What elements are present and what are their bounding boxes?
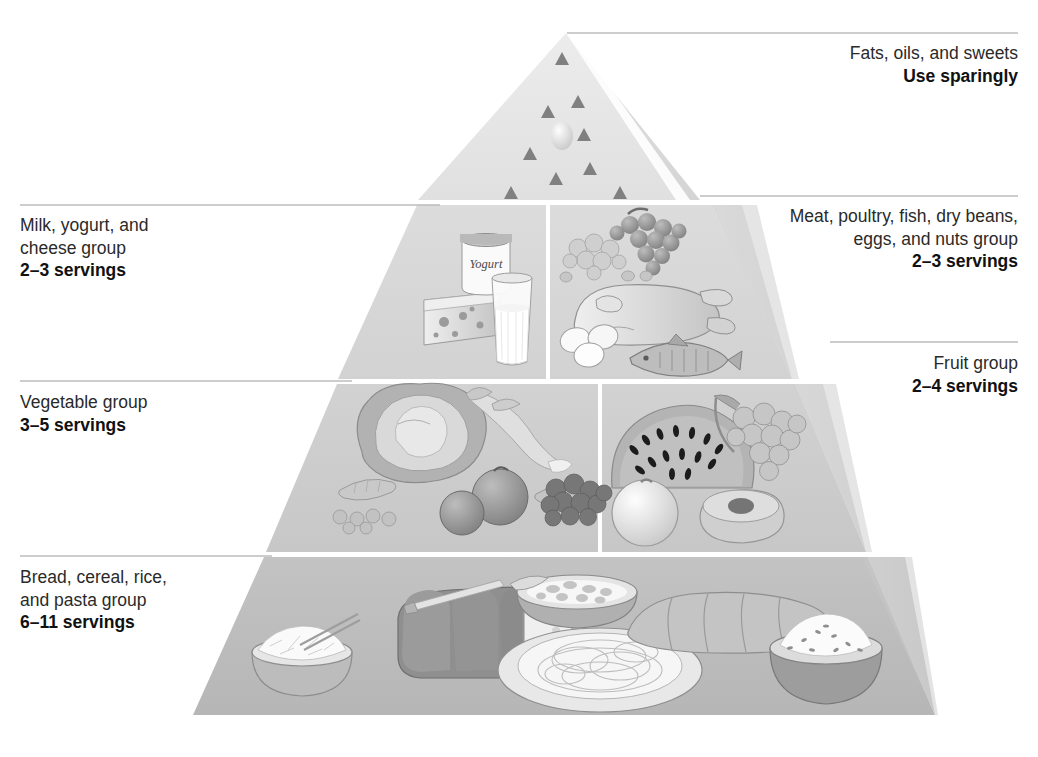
callout-bread-cereal-rice-pasta: Bread, cereal, rice, and pasta group 6–1… bbox=[20, 566, 167, 634]
group-label-fats: Fats, oils, and sweets bbox=[850, 42, 1018, 65]
nut-icon bbox=[560, 272, 572, 282]
lettuce-icon bbox=[357, 383, 486, 482]
group-label-milk-line1: Milk, yogurt, and bbox=[20, 214, 148, 237]
group-label-meat-line1: Meat, poultry, fish, dry beans, bbox=[790, 205, 1018, 228]
pyramid-graphic: Yogurt bbox=[0, 0, 1038, 757]
melon-half-icon bbox=[700, 490, 784, 543]
callout-vegetable-group: Vegetable group 3–5 servings bbox=[20, 391, 147, 437]
food-pyramid-diagram: Yogurt bbox=[0, 0, 1038, 757]
nut-icon bbox=[640, 271, 652, 281]
group-label-fruit: Fruit group bbox=[912, 352, 1018, 375]
group-label-meat-line2: eggs, and nuts group bbox=[790, 228, 1018, 251]
group-label-milk-line2: cheese group bbox=[20, 237, 148, 260]
servings-label-meat: 2–3 servings bbox=[790, 250, 1018, 273]
yogurt-label: Yogurt bbox=[470, 257, 503, 271]
servings-label-fats: Use sparingly bbox=[850, 65, 1018, 88]
milk-glass-icon bbox=[492, 273, 532, 365]
tier-milk-meat bbox=[338, 205, 799, 379]
sugar-circle-symbols bbox=[551, 122, 573, 150]
nut-icon bbox=[622, 271, 635, 281]
servings-label-milk: 2–3 servings bbox=[20, 259, 148, 282]
group-label-vegetable: Vegetable group bbox=[20, 391, 147, 414]
orange-icon bbox=[612, 480, 678, 547]
group-label-bread-line1: Bread, cereal, rice, bbox=[20, 566, 167, 589]
servings-label-fruit: 2–4 servings bbox=[912, 375, 1018, 398]
callout-fruit-group: Fruit group 2–4 servings bbox=[912, 352, 1018, 398]
group-label-bread-line2: and pasta group bbox=[20, 589, 167, 612]
servings-label-bread: 6–11 servings bbox=[20, 611, 167, 634]
callout-meat-poultry-fish: Meat, poultry, fish, dry beans, eggs, an… bbox=[790, 205, 1018, 273]
callout-fats-oils-sweets: Fats, oils, and sweets Use sparingly bbox=[850, 42, 1018, 88]
callout-milk-yogurt-cheese: Milk, yogurt, and cheese group 2–3 servi… bbox=[20, 214, 148, 282]
servings-label-vegetable: 3–5 servings bbox=[20, 414, 147, 437]
